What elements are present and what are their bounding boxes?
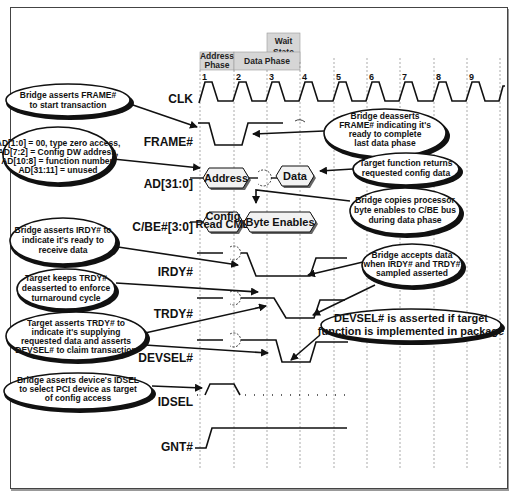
phase-header: Wait State Address Phase Data Phase: [200, 33, 300, 70]
svg-text:Target keeps TRDY#: Target keeps TRDY#: [25, 273, 107, 283]
curved-arrow-icon: [295, 120, 305, 122]
signal-label-frame: FRAME#: [144, 135, 194, 149]
byte-enables-label: Byte Enables: [245, 216, 314, 228]
clock-number: 7: [402, 72, 407, 82]
pci-config-read-timing-diagram: Wait State Address Phase Data Phase 1 2 …: [0, 0, 523, 494]
signal-label-devsel: DEVSEL#: [138, 351, 193, 365]
clock-number: 5: [336, 72, 341, 82]
svg-text:Bridge asserts FRAME#: Bridge asserts FRAME#: [20, 90, 117, 100]
callout-target-returns: Target function returns requested config…: [320, 153, 463, 189]
turnaround-icon: [230, 333, 241, 347]
clock-number: 6: [369, 72, 374, 82]
svg-text:turnaround cycle: turnaround cycle: [32, 293, 101, 303]
config-cmd-label: Read CMD: [195, 218, 250, 230]
signal-label-trdy: TRDY#: [154, 307, 194, 321]
clock-number: 9: [469, 72, 474, 82]
clock-numbers: 1 2 3 4 5 6 7 8 9: [202, 72, 474, 82]
devsel-waveform: [197, 340, 348, 362]
svg-text:sampled asserted: sampled asserted: [376, 268, 448, 278]
clock-number: 1: [202, 72, 207, 82]
data-label: Data: [283, 170, 308, 182]
address-label: Address: [204, 172, 248, 184]
svg-text:last data phase: last data phase: [354, 138, 416, 148]
signal-label-cbe: C/BE#[3:0]: [132, 220, 193, 234]
idsel-waveform: [205, 384, 240, 395]
callout-trdy-deasserted: Target keeps TRDY# deasserted to enforce…: [17, 269, 258, 313]
svg-text:Bridge asserts IRDY# to: Bridge asserts IRDY# to: [15, 225, 112, 235]
callout-bridge-accepts: Bridge accepts data when IRDY# and TRDY#…: [308, 244, 466, 315]
svg-text:deasserted to enforce: deasserted to enforce: [22, 283, 111, 293]
turnaround-icon: [230, 291, 241, 305]
clock-number: 4: [302, 72, 307, 82]
svg-text:requested config data: requested config data: [362, 168, 451, 178]
cbe-bus: Config Read CMD Byte Enables: [190, 210, 318, 234]
svg-text:during data phase: during data phase: [368, 215, 441, 225]
signal-label-clk: CLK: [168, 92, 193, 106]
signal-label-idsel: IDSEL: [158, 395, 193, 409]
clock-number: 2: [236, 72, 241, 82]
signal-label-gnt: GNT#: [161, 440, 193, 454]
turnaround-icon: [258, 170, 271, 186]
ad-bus: Address Data: [190, 166, 316, 190]
svg-text:Bridge copies processor: Bridge copies processor: [355, 195, 455, 205]
address-phase-label: Phase: [204, 60, 229, 70]
irdy-waveform: [197, 253, 347, 276]
svg-text:DEVSEL# to claim transaction: DEVSEL# to claim transaction: [15, 345, 136, 355]
svg-text:function is implemented in pac: function is implemented in package: [318, 325, 504, 337]
trdy-waveform: [197, 298, 345, 318]
svg-text:byte enables to C/BE bus: byte enables to C/BE bus: [354, 205, 456, 215]
clock-number: 3: [269, 72, 274, 82]
signal-label-ad: AD[31:0]: [144, 177, 193, 191]
svg-text:to start transaction: to start transaction: [30, 100, 107, 110]
gnt-waveform: [195, 428, 347, 448]
turnaround-icon: [230, 246, 241, 260]
clock-number: 8: [436, 72, 441, 82]
svg-text:receive data: receive data: [38, 245, 87, 255]
wait-state-label: Wait: [275, 36, 293, 46]
svg-text:indicate it's ready to: indicate it's ready to: [22, 235, 104, 245]
svg-text:AD[31:11] = unused: AD[31:11] = unused: [18, 165, 97, 175]
clk-waveform: [199, 82, 505, 103]
svg-text:DEVSEL# is asserted if target: DEVSEL# is asserted if target: [334, 312, 488, 324]
svg-text:of config access: of config access: [45, 393, 112, 403]
callout-trdy-assert: Target asserts TRDY# to indicate it's su…: [6, 306, 268, 364]
svg-text:Target function returns: Target function returns: [360, 158, 453, 168]
data-phase-label: Data Phase: [244, 56, 290, 66]
signal-label-irdy: IRDY#: [158, 265, 194, 279]
callout-devsel-note: DEVSEL# is asserted if target function i…: [291, 309, 505, 360]
